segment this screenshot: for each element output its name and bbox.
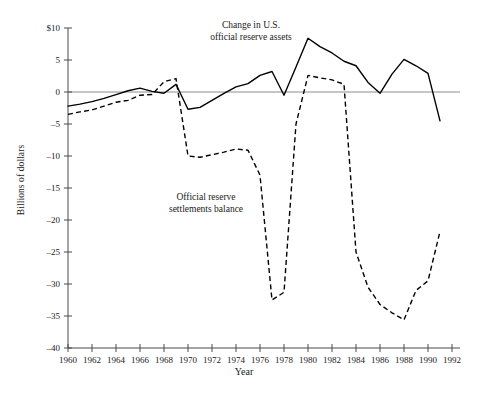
x-tick-label: 1976 xyxy=(251,355,270,365)
y-tick-label: –30 xyxy=(46,279,61,289)
y-tick-label: –35 xyxy=(46,311,61,321)
annotation-line-2: settlements balance xyxy=(140,204,272,216)
x-tick-label: 1984 xyxy=(347,355,366,365)
y-tick-label: –20 xyxy=(46,215,61,225)
x-tick-label: 1980 xyxy=(299,355,318,365)
annotation-line-2: official reserve assets xyxy=(186,32,316,44)
x-tick-label: 1968 xyxy=(155,355,174,365)
y-tick-label: –10 xyxy=(46,151,61,161)
x-axis-title: Year xyxy=(0,366,488,377)
x-tick-label: 1982 xyxy=(323,355,341,365)
y-tick-label: 0 xyxy=(56,87,61,97)
x-tick-label: 1960 xyxy=(59,355,78,365)
annotation-settlements-balance: Official reserve settlements balance xyxy=(140,192,272,215)
y-tick-label: –5 xyxy=(50,119,61,129)
x-tick-label: 1990 xyxy=(419,355,438,365)
y-tick-label: –40 xyxy=(46,343,61,353)
x-tick-label: 1974 xyxy=(227,355,246,365)
chart-container: $1050–5–10–15–20–25–30–35–40 19601962196… xyxy=(0,0,488,393)
x-tick-label: 1966 xyxy=(131,355,150,365)
y-tick-label: $10 xyxy=(47,23,61,33)
annotation-line-1: Change in U.S. xyxy=(186,20,316,32)
x-tick-label: 1992 xyxy=(443,355,461,365)
x-tick-label: 1962 xyxy=(83,355,101,365)
y-tick-label: –25 xyxy=(46,247,61,257)
x-tick-label: 1970 xyxy=(179,355,198,365)
x-tick-label: 1986 xyxy=(371,355,390,365)
annotation-reserve-assets: Change in U.S. official reserve assets xyxy=(186,20,316,43)
x-tick-label: 1972 xyxy=(203,355,221,365)
y-tick-label: –15 xyxy=(46,183,61,193)
y-axis-title: Billions of dollars xyxy=(16,125,26,235)
y-tick-label: 5 xyxy=(56,55,61,65)
x-tick-label: 1964 xyxy=(107,355,126,365)
annotation-line-1: Official reserve xyxy=(140,192,272,204)
x-tick-label: 1978 xyxy=(275,355,294,365)
x-tick-label: 1988 xyxy=(395,355,414,365)
